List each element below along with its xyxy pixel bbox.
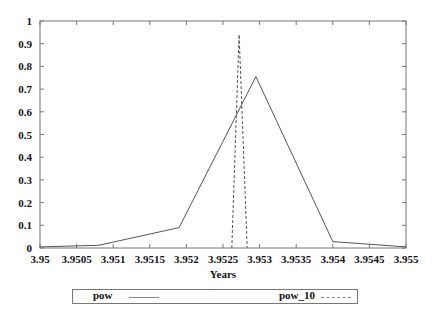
y-tick-label: 1: [27, 15, 33, 27]
y-tick-label: 0.3: [18, 174, 32, 186]
legend-swatch-solid: [129, 297, 159, 298]
y-tick-label: 0.4: [18, 151, 32, 163]
x-tick-label: 3.9545: [354, 253, 385, 265]
x-axis-title: Years: [210, 268, 237, 280]
series-lines: [40, 35, 406, 248]
x-tick-label: 3.951: [101, 253, 126, 265]
y-axis: 00.10.20.30.40.50.60.70.80.91: [18, 15, 406, 254]
line-chart: 00.10.20.30.40.50.60.70.80.91 3.953.9505…: [0, 0, 436, 317]
x-tick-label: 3.955: [394, 253, 419, 265]
x-tick-label: 3.952: [174, 253, 199, 265]
legend-label-pow: pow: [93, 289, 113, 301]
x-tick-label: 3.9535: [281, 253, 312, 265]
x-tick-label: 3.954: [320, 253, 345, 265]
y-tick-label: 0.9: [18, 38, 32, 50]
x-tick-label: 3.9505: [61, 253, 92, 265]
y-tick-label: 0.7: [18, 83, 32, 95]
x-tick-label: 3.9525: [208, 253, 239, 265]
x-tick-label: 3.95: [30, 253, 50, 265]
plot-frame: [40, 21, 406, 248]
y-tick-label: 0.8: [18, 60, 32, 72]
series-pow: [40, 77, 406, 247]
y-tick-label: 0.1: [18, 219, 32, 231]
x-tick-label: 3.953: [247, 253, 272, 265]
legend-swatch-dashed: [321, 297, 351, 298]
legend: pow pow_10: [72, 289, 358, 304]
y-tick-label: 0.6: [18, 106, 32, 118]
x-axis: 3.953.95053.9513.95153.9523.95253.9533.9…: [30, 21, 419, 265]
y-tick-label: 0.2: [18, 197, 32, 209]
series-pow-10: [232, 35, 247, 248]
legend-label-pow-10: pow_10: [279, 289, 315, 301]
x-tick-label: 3.9515: [135, 253, 166, 265]
y-tick-label: 0.5: [18, 129, 32, 141]
